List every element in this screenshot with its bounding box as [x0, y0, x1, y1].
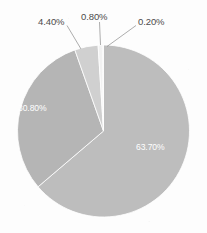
pie-label-0-20: 0.20%: [138, 16, 164, 27]
pie-chart-canvas: [0, 0, 207, 233]
pie-label-0-80: 0.80%: [81, 11, 107, 22]
pie-label-4-40: 4.40%: [38, 16, 64, 27]
pie-chart-figure: 4.40% 0.80% 0.20% 30.80% 63.70%: [0, 0, 207, 233]
leader-line-0-80: [100, 22, 101, 45]
pie-label-63-70: 63.70%: [136, 142, 165, 152]
leader-line-0-20: [107, 26, 136, 47]
pie-label-30-80: 30.80%: [18, 103, 47, 113]
leader-line-4-40: [67, 26, 81, 50]
